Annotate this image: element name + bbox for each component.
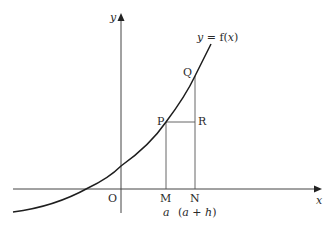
x-axis-arrow-icon — [314, 186, 322, 193]
x-value-a-plus-h: (a + h) — [178, 206, 216, 219]
curve-label: y = f(x) — [196, 31, 238, 44]
y-axis-arrow-icon — [118, 13, 125, 21]
origin-label: O — [108, 192, 117, 205]
y-axis-label: y — [109, 11, 117, 24]
point-N-label: N — [190, 192, 200, 205]
x-value-a: a — [163, 206, 170, 219]
point-P-label: P — [157, 115, 165, 128]
x-axis-label: x — [316, 194, 323, 207]
point-Q-label: Q — [183, 66, 192, 79]
function-graph-diagram: y x O y = f(x) Q P R M N a (a + h) — [0, 0, 328, 226]
curve-f — [13, 44, 211, 212]
point-M-label: M — [160, 192, 171, 205]
point-R-label: R — [198, 115, 207, 128]
